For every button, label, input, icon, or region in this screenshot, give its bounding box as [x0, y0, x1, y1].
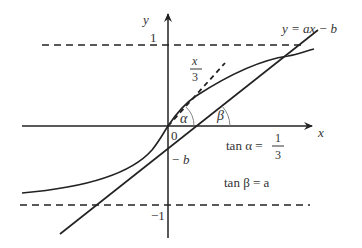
- tick-y1-label: 1: [150, 30, 157, 45]
- line-equation-label: y = ax − b: [280, 21, 338, 36]
- y-axis-label: y: [141, 12, 149, 27]
- tangent-label-numerator: x: [191, 54, 198, 68]
- tangent-label-denominator: 3: [192, 70, 198, 84]
- tan-alpha-denominator: 3: [275, 148, 281, 162]
- tan-beta-equation: tan β = a: [224, 175, 270, 190]
- alpha-label: α: [180, 111, 188, 126]
- function-diagram: y x 0 1 −1 − b y = ax − b x 3 α β tan α …: [0, 0, 362, 248]
- y-intercept-label: − b: [171, 152, 190, 167]
- tan-alpha-lhs: tan α =: [226, 138, 263, 153]
- tick-y-minus1-label: −1: [151, 208, 165, 223]
- x-axis-label: x: [317, 125, 324, 140]
- origin-label: 0: [171, 128, 178, 143]
- beta-label: β: [216, 108, 224, 123]
- tan-alpha-numerator: 1: [275, 131, 281, 145]
